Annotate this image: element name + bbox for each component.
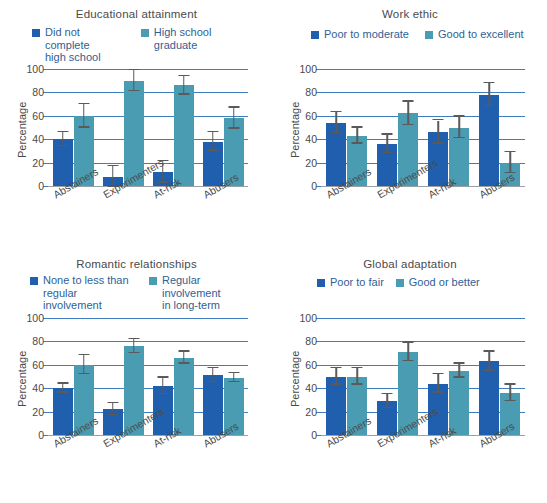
legend-swatch-icon-series-2 <box>425 31 433 39</box>
legend-item-series-1[interactable]: None to less than regular involvement <box>30 274 135 312</box>
chart-title-global-adaptation: Global adaptation <box>273 258 547 270</box>
y-tick-label-20: 20 <box>305 157 317 169</box>
error-bar-cap-lower <box>484 369 495 371</box>
error-bar-cap-upper <box>484 350 495 352</box>
error-bar-cap-upper <box>505 383 516 385</box>
error-bar-cap-upper <box>228 372 239 374</box>
bar-fill <box>174 85 194 186</box>
bar-series-1-abusers[interactable] <box>479 95 499 186</box>
chart-panel-romantic-relationships: Romantic relationshipsNone to less than … <box>0 250 273 503</box>
y-tick-label-20: 20 <box>305 406 317 418</box>
y-tick-label-60: 60 <box>305 110 317 122</box>
chart-panel-work-ethic: Work ethicPoor to moderateGood to excell… <box>273 0 547 250</box>
bar-series-2-at-risk[interactable] <box>174 85 194 186</box>
error-bar-cap-lower <box>352 142 363 144</box>
y-tick-label-20: 20 <box>32 406 44 418</box>
legend-item-series-1[interactable]: Did not complete high school <box>32 26 127 64</box>
y-tick-label-40: 40 <box>32 382 44 394</box>
chart-legend-romantic-relationships: None to less than regular involvementReg… <box>30 274 258 312</box>
error-bar-cap-upper <box>78 354 89 356</box>
y-tick-label-60: 60 <box>305 359 317 371</box>
error-bar-cap-upper <box>331 111 342 113</box>
error-bar-cap-upper <box>207 367 218 369</box>
chart-title-work-ethic: Work ethic <box>273 8 547 20</box>
legend-item-series-2[interactable]: Good or better <box>396 276 480 289</box>
error-bar-cap-lower <box>403 124 414 126</box>
chart-legend-global-adaptation: Poor to fairGood or better <box>317 276 527 289</box>
error-bar-cap-upper <box>382 133 393 135</box>
error-bar-cap-lower <box>78 126 89 128</box>
bar-group-abusers <box>198 69 248 186</box>
error-bar-cap-upper <box>403 341 414 343</box>
y-axis-label: Percentage <box>16 101 28 157</box>
bar-series-1-abusers[interactable] <box>203 375 223 435</box>
error-bar-cap-upper <box>57 382 68 384</box>
error-bar-cap-upper <box>331 367 342 369</box>
y-axis-label: Percentage <box>289 350 301 406</box>
bar-group-abusers <box>474 69 525 186</box>
legend-label-series-1: Poor to fair <box>330 276 384 289</box>
error-bar-cap-upper <box>433 119 444 121</box>
error-bar-cap-upper <box>433 373 444 375</box>
error-bar-cap-lower <box>403 360 414 362</box>
legend-item-series-2[interactable]: Regular involvement in long-term <box>149 274 258 312</box>
legend-item-series-2[interactable]: Good to excellent <box>425 28 524 41</box>
error-bar <box>407 343 409 362</box>
error-bar-cap-lower <box>57 391 68 393</box>
error-bar <box>488 352 490 371</box>
error-bar-cap-upper <box>57 131 68 133</box>
legend-item-series-2[interactable]: High school graduate <box>141 26 257 64</box>
y-tick-label-100: 100 <box>299 312 317 324</box>
error-bar-cap-upper <box>228 106 239 108</box>
bar-series-1-abstainers[interactable] <box>326 377 346 436</box>
y-tick-label-20: 20 <box>32 157 44 169</box>
error-bar-cap-lower <box>207 149 218 151</box>
error-bar-cap-lower <box>331 132 342 134</box>
legend-label-series-1: Poor to moderate <box>324 28 409 41</box>
y-tick-label-100: 100 <box>26 63 44 75</box>
chart-panel-educational-attainment: Educational attainmentDid not complete h… <box>0 0 273 250</box>
y-tick-label-40: 40 <box>305 133 317 145</box>
legend-item-series-1[interactable]: Poor to moderate <box>311 28 409 41</box>
error-bar <box>488 83 490 106</box>
legend-swatch-icon-series-1 <box>311 31 319 39</box>
bar-fill <box>479 95 499 186</box>
error-bar-cap-lower <box>207 381 218 383</box>
error-bar-cap-upper <box>178 350 189 352</box>
error-bar-cap-upper <box>382 393 393 395</box>
legend-swatch-icon-series-1 <box>30 277 38 285</box>
error-bar-cap-upper <box>78 103 89 105</box>
error-bar-cap-upper <box>107 165 118 167</box>
error-bar-cap-upper <box>128 69 139 71</box>
legend-label-series-2: Regular involvement in long-term <box>162 274 258 312</box>
error-bar-cap-upper <box>207 131 218 133</box>
error-bar-cap-lower <box>228 127 239 129</box>
error-bar-cap-lower <box>433 142 444 144</box>
legend-label-series-2: High school graduate <box>154 26 257 51</box>
y-tick-label-0: 0 <box>311 429 317 441</box>
y-tick-label-100: 100 <box>299 63 317 75</box>
error-bar-cap-lower <box>454 137 465 139</box>
legend-label-series-2: Good to excellent <box>438 28 524 41</box>
error-bar-cap-lower <box>331 383 342 385</box>
y-tick-label-80: 80 <box>32 86 44 98</box>
error-bar <box>233 108 235 129</box>
y-tick-label-100: 100 <box>26 312 44 324</box>
error-bar-cap-lower <box>382 152 393 154</box>
bar-series-1-abusers[interactable] <box>479 361 499 435</box>
legend-item-series-1[interactable]: Poor to fair <box>317 276 384 289</box>
error-bar <box>183 76 185 95</box>
error-bar <box>437 121 439 144</box>
chart-title-romantic-relationships: Romantic relationships <box>0 258 273 270</box>
error-bar <box>386 135 388 154</box>
bar-group-abusers <box>474 318 525 435</box>
legend-label-series-1: Did not complete high school <box>45 26 127 64</box>
error-bar-cap-upper <box>454 362 465 364</box>
bar-fill <box>203 375 223 435</box>
bar-series-1-abstainers[interactable] <box>326 123 346 186</box>
error-bar <box>437 374 439 393</box>
y-tick-label-80: 80 <box>305 335 317 347</box>
error-bar-cap-lower <box>484 105 495 107</box>
error-bar-cap-lower <box>128 90 139 92</box>
error-bar-cap-lower <box>433 391 444 393</box>
